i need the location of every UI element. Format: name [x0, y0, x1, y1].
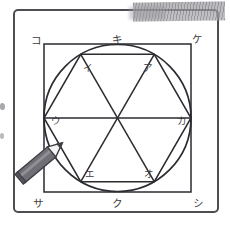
label-hexagon-vertex-ka: カ: [177, 116, 187, 126]
screenshot-root: コ ケ サ シ キ ク ア イ ウ エ オ カ: [0, 0, 230, 228]
label-square-corner-ko: コ: [31, 35, 41, 45]
label-hexagon-vertex-i: イ: [83, 63, 93, 73]
label-hexagon-vertex-u: ウ: [51, 116, 61, 126]
label-hexagon-vertex-o: オ: [144, 169, 154, 179]
pencil-smudge: [133, 1, 225, 21]
label-hexagon-vertex-e: エ: [85, 169, 95, 179]
label-hexagon-vertex-a: ア: [143, 63, 153, 73]
label-square-edge-ki: キ: [112, 34, 122, 44]
label-square-corner-ke: ケ: [192, 34, 202, 44]
label-square-corner-shi: シ: [193, 198, 203, 208]
label-square-edge-ku: ク: [112, 198, 122, 208]
label-square-corner-sa: サ: [33, 198, 43, 208]
